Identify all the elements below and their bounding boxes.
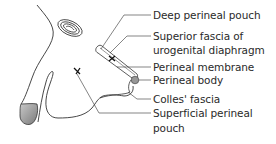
label-superficial-perineal-pouch-line1: Superficial perineal	[153, 107, 253, 119]
label-perineal-membrane: Perineal membrane	[153, 61, 254, 73]
x-mark-superficial-pouch-icon	[74, 68, 80, 74]
perineal-body	[131, 76, 139, 84]
label-perineal-body: Perineal body	[153, 74, 223, 86]
body-outline	[21, 5, 133, 122]
leader-lines	[77, 15, 151, 113]
label-colles-fascia: Colles' fascia	[153, 93, 220, 105]
label-superior-fascia-line2: urogenital diaphragm	[153, 44, 265, 56]
glans	[20, 104, 38, 125]
coiled-structure	[55, 16, 84, 40]
label-superior-fascia-line1: Superior fascia of	[153, 30, 243, 42]
urogenital-diaphragm	[96, 45, 138, 78]
label-superficial-perineal-pouch-line2: pouch	[153, 122, 185, 134]
x-mark-deep-pouch-icon	[109, 56, 115, 61]
label-deep-perineal-pouch: Deep perineal pouch	[153, 9, 260, 21]
